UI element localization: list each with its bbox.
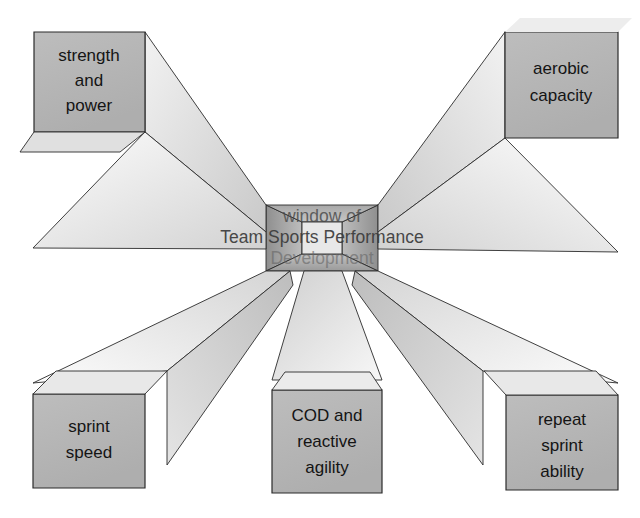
- hub-title-line-3: Development: [270, 248, 373, 268]
- box-sprint-speed-top: [33, 371, 167, 394]
- box-repeat-sprint-line-1: repeat: [538, 410, 586, 429]
- box-aerobic-capacity-line-1: aerobic: [533, 59, 589, 78]
- box-sprint-speed-line-1: sprint: [68, 417, 110, 436]
- hub-title-line-1: window of: [282, 206, 361, 226]
- box-aerobic-capacity-top: [505, 18, 632, 32]
- box-repeat-sprint-line-2: sprint: [541, 436, 583, 455]
- box-strength-and-power[interactable]: strength and power: [20, 32, 145, 152]
- diagram-canvas: strength and power aerobic capacity spri…: [0, 0, 640, 518]
- box-repeat-sprint-line-3: ability: [540, 462, 584, 481]
- team-sports-performance-window-diagram: strength and power aerobic capacity spri…: [0, 0, 640, 518]
- box-sprint-speed-line-2: speed: [66, 443, 112, 462]
- box-repeat-sprint-ability[interactable]: repeat sprint ability: [484, 371, 618, 490]
- box-cod-line-2: reactive: [297, 432, 357, 451]
- box-aerobic-capacity-face: [505, 32, 618, 138]
- box-cod-top: [272, 372, 382, 390]
- box-aerobic-capacity[interactable]: aerobic capacity: [505, 18, 632, 138]
- box-cod-line-1: COD and: [292, 406, 363, 425]
- box-sprint-speed-face: [33, 394, 145, 488]
- box-strength-and-power-line-1: strength: [58, 46, 119, 65]
- box-strength-and-power-line-3: power: [66, 96, 113, 115]
- box-aerobic-capacity-line-2: capacity: [530, 86, 593, 105]
- box-repeat-sprint-top: [484, 371, 618, 395]
- box-cod-line-3: agility: [305, 458, 349, 477]
- box-cod-and-reactive-agility[interactable]: COD and reactive agility: [272, 372, 382, 493]
- box-sprint-speed[interactable]: sprint speed: [33, 371, 167, 488]
- box-strength-and-power-line-2: and: [75, 71, 103, 90]
- hub-title-line-2: Team Sports Performance: [220, 227, 423, 247]
- box-strength-and-power-bottom: [20, 132, 145, 152]
